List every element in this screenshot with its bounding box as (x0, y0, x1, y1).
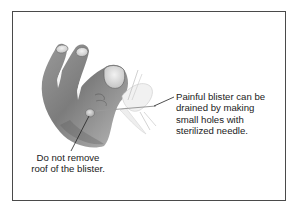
leader-line-drain-note (154, 97, 174, 106)
blister (86, 109, 95, 117)
annotation-drain-blister: Painful blister can be drained by making… (176, 91, 265, 137)
annotation-do-not-remove-roof: Do not remove roof of the blister. (27, 152, 109, 175)
toenail-big (104, 66, 125, 89)
foot-shape (42, 44, 128, 148)
